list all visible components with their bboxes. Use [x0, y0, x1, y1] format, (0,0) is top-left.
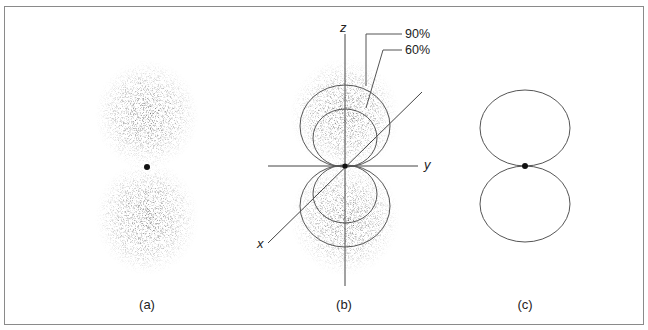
panel-c-caption: (c): [517, 297, 532, 312]
y-axis-label: y: [424, 157, 431, 172]
panel-a-nucleus-dot: [144, 164, 150, 170]
contour-90-label: 90%: [405, 27, 430, 41]
panel-a-caption: (a): [139, 297, 155, 312]
panel-b-nucleus-dot: [342, 163, 347, 168]
lobe-lower: [480, 166, 570, 242]
contour-60-label: 60%: [405, 43, 430, 57]
panel-c-nucleus-dot: [522, 163, 528, 169]
figure-canvas: [0, 0, 648, 330]
lobe-upper: [480, 90, 570, 166]
x-axis-label: x: [257, 236, 264, 251]
z-axis-label: z: [340, 20, 347, 35]
panel-b-caption: (b): [336, 297, 352, 312]
panel-b-axes: [268, 34, 422, 286]
